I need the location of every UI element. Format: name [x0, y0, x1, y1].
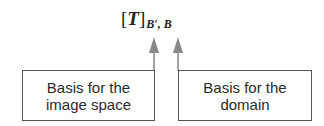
image-space-basis-box: Basis for the image space	[22, 70, 155, 121]
box-line-1: Basis for the	[23, 79, 154, 96]
domain-basis-box: Basis for the domain	[178, 70, 312, 121]
arrow-image-space	[149, 37, 159, 71]
box-line-1: Basis for the	[179, 79, 311, 96]
box-line-2: domain	[179, 96, 311, 113]
arrow-domain	[173, 37, 183, 71]
box-line-2: image space	[23, 96, 154, 113]
